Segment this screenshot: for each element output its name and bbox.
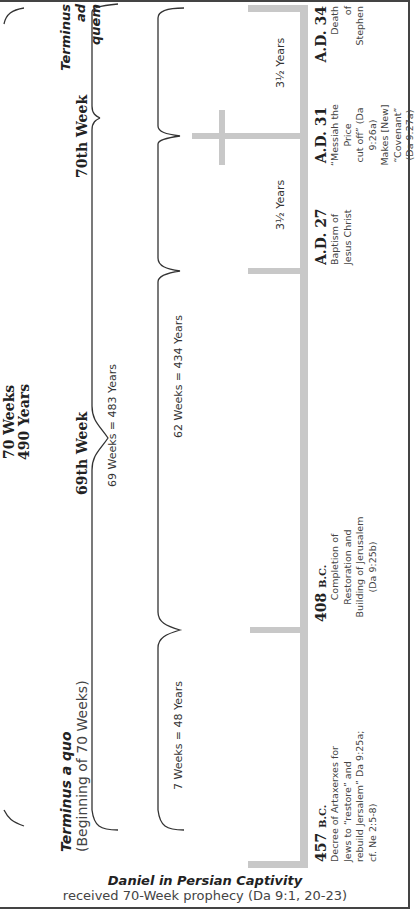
cross-ad31-arm — [219, 110, 225, 165]
tick-457bc — [248, 861, 308, 868]
timeline-canvas: 70 Weeks 490 Years Terminus a quo (Begin… — [0, 0, 410, 870]
span-half-2: 3½ Years — [274, 38, 287, 88]
event-ad34: A.D. 34 DeathofStephen — [313, 6, 367, 64]
span-7-weeks: 7 Weeks = 48 Years — [172, 681, 185, 790]
event-457bc: 457 B.C. Decree of Artaxerxes forJews to… — [313, 682, 379, 862]
footer-title: Daniel in Persian Captivity — [0, 873, 410, 888]
event-ad31: A.D. 31 “Messiah the Pricecut off” (Da 9… — [313, 96, 415, 174]
total-title: 70 Weeks 490 Years — [2, 384, 32, 460]
terminus-ad-quem: Terminus ad quem — [58, 4, 103, 80]
week-70-label: 70th Week — [74, 95, 90, 178]
span-62-weeks: 62 Weeks = 434 Years — [172, 315, 185, 438]
cross-ad31 — [192, 133, 304, 139]
tick-ad34 — [248, 5, 308, 12]
span-half-1: 3½ Years — [274, 180, 287, 230]
terminus-a-quo: Terminus a quo (Beginning of 70 Weeks) — [58, 680, 90, 852]
event-408bc: 408 B.C. Completion ofRestoration andBui… — [313, 512, 379, 622]
week-69-label: 69th Week — [74, 412, 90, 495]
tick-ad27 — [248, 268, 304, 274]
span-69-weeks: 69 Weeks = 483 Years — [106, 364, 119, 487]
tick-408bc — [250, 627, 304, 633]
event-ad27: A.D. 27 Baptism ofJesus Christ — [313, 185, 354, 265]
footer: Daniel in Persian Captivity received 70-… — [0, 873, 410, 903]
footer-subtitle: received 70-Week prophecy (Da 9:1, 20-23… — [0, 888, 410, 903]
